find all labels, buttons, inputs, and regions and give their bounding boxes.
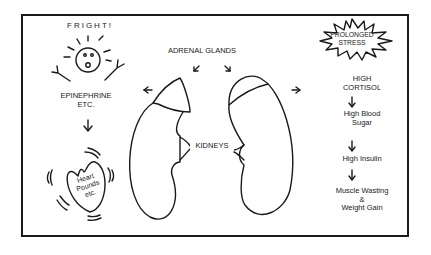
arrow-to-right-gland-icon	[225, 66, 230, 71]
high-cortisol-label: HIGH CORTISOL	[316, 75, 408, 92]
epinephrine-line-2: ETC.	[46, 101, 126, 110]
arrow-left-icon	[144, 87, 152, 93]
outcome-line-3: Weight Gain	[316, 204, 408, 213]
insulin-line: High Insulin	[316, 155, 408, 164]
arrow-down-icon	[349, 141, 355, 151]
arrow-down-icon	[349, 97, 355, 107]
prolonged-stress-label: PROLONGED STRESS	[322, 31, 382, 47]
arrow-right-icon	[292, 87, 300, 93]
fright-label: FRIGHT!	[60, 21, 120, 30]
adrenal-glands-label: ADRENAL GLANDS	[162, 47, 242, 56]
blood-sugar-line-2: Sugar	[316, 119, 408, 128]
high-blood-sugar-label: High Blood Sugar	[316, 110, 408, 127]
right-kidney-icon	[229, 76, 293, 214]
arrow-to-left-gland-icon	[194, 66, 199, 71]
left-kidney-icon	[130, 78, 190, 219]
stress-line-2: STRESS	[322, 39, 382, 47]
arrow-down-icon	[84, 120, 92, 131]
epinephrine-label: EPINEPHRINE ETC.	[46, 92, 126, 109]
frightened-face-icon	[52, 36, 124, 81]
arrow-down-icon	[349, 170, 355, 180]
stress-line-1: PROLONGED	[322, 31, 382, 39]
muscle-wasting-weight-gain-label: Muscle Wasting & Weight Gain	[316, 187, 408, 213]
cortisol-line-2: CORTISOL	[316, 84, 408, 93]
high-insulin-label: High Insulin	[316, 155, 408, 164]
kidneys-label: KIDNEYS	[190, 142, 234, 151]
